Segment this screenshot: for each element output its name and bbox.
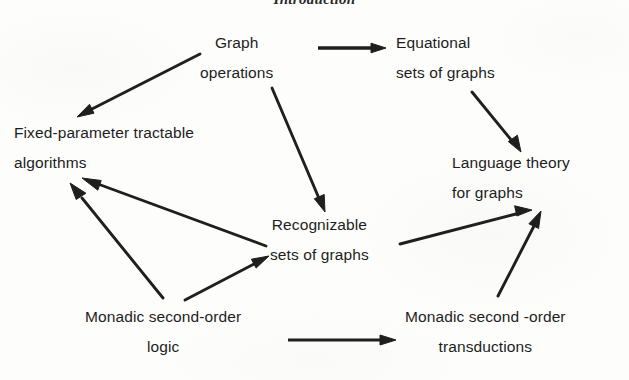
node-mso-logic-line-1: Monadic second-order <box>85 302 241 332</box>
node-fixed-parameter-tractable-algorithms[interactable]: Fixed-parameter tractable algorithms <box>14 118 194 178</box>
edge-mso-transductions-to-language-theory <box>498 211 541 296</box>
node-mso-transductions-line-1: Monadic second -order <box>405 302 566 332</box>
node-recognizable-sets-of-graphs[interactable]: Recognizable sets of graphs <box>270 210 369 270</box>
node-mso-transductions-line-2: transductions <box>405 332 566 362</box>
node-language-theory-line-1: Language theory <box>452 148 570 178</box>
edge-graph-operations-to-recognizable-sets <box>272 88 325 212</box>
node-graph-operations[interactable]: Graph operations <box>200 28 273 88</box>
node-recognizable-sets-line-2: sets of graphs <box>270 240 369 270</box>
node-mso-logic-line-2: logic <box>85 332 241 362</box>
node-fixed-parameter-line-2: algorithms <box>14 148 194 178</box>
node-graph-operations-line-2: operations <box>200 58 273 88</box>
node-equational-sets-line-2: sets of graphs <box>396 58 495 88</box>
node-language-theory-line-2: for graphs <box>452 178 570 208</box>
edge-recognizable-sets-to-language-theory <box>400 206 532 244</box>
node-monadic-second-order-transductions[interactable]: Monadic second -order transductions <box>405 302 566 362</box>
edge-graph-operations-to-equational-sets <box>318 43 386 53</box>
node-fixed-parameter-line-1: Fixed-parameter tractable <box>14 118 194 148</box>
node-monadic-second-order-logic[interactable]: Monadic second-order logic <box>85 302 241 362</box>
node-recognizable-sets-line-1: Recognizable <box>270 210 369 240</box>
node-equational-sets-of-graphs[interactable]: Equational sets of graphs <box>396 28 495 88</box>
edge-mso-logic-to-fixed-parameter <box>70 183 163 298</box>
edge-recognizable-sets-to-fixed-parameter <box>82 178 266 246</box>
node-graph-operations-line-1: Graph <box>200 28 273 58</box>
edge-equational-sets-to-language-theory <box>472 92 521 152</box>
edge-mso-logic-to-mso-transductions <box>288 335 396 345</box>
node-equational-sets-line-1: Equational <box>396 28 495 58</box>
diagram-page: Introduction <box>0 0 629 380</box>
node-language-theory-for-graphs[interactable]: Language theory for graphs <box>452 148 570 208</box>
edge-mso-logic-to-recognizable-sets <box>185 256 269 300</box>
edge-graph-operations-to-fixed-parameter <box>77 54 200 117</box>
